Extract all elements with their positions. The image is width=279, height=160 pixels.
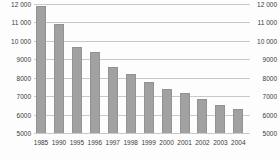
y-axis-tick-label-left: 12 000 (0, 1, 31, 8)
y-axis-tick-label-right: 11 000 (246, 19, 277, 26)
y-axis-tick-label-right: 8000 (246, 75, 277, 82)
y-axis-tick-label-right: 12 000 (246, 1, 277, 8)
bar-chart: 12 00012 00011 00011 00010 00010 0009000… (0, 0, 279, 160)
bar (144, 82, 154, 134)
bar (233, 109, 243, 134)
y-axis-tick-label-left: 10 000 (0, 38, 31, 45)
gridline (34, 78, 250, 79)
y-axis-tick-label-left: 5000 (0, 130, 31, 137)
bar (90, 52, 100, 133)
y-axis-tick-label-left: 11 000 (0, 19, 31, 26)
y-axis-tick-label-right: 5000 (246, 130, 277, 137)
bar (215, 105, 225, 134)
bar (197, 99, 207, 133)
x-axis-tick-label: 2004 (225, 139, 251, 146)
gridline (34, 4, 250, 5)
bar (126, 74, 136, 134)
gridline (34, 59, 250, 60)
bar (36, 6, 46, 133)
y-axis-tick-label-left: 8000 (0, 75, 31, 82)
y-axis-tick-label-right: 6000 (246, 112, 277, 119)
gridline (34, 96, 250, 97)
bar (72, 47, 82, 134)
bar (54, 24, 64, 134)
gridline (34, 22, 250, 23)
bar (108, 67, 118, 133)
y-axis-tick-label-left: 6000 (0, 112, 31, 119)
y-axis-tick-label-left: 7000 (0, 93, 31, 100)
y-axis-tick-label-right: 7000 (246, 93, 277, 100)
y-axis-tick-label-right: 10 000 (246, 38, 277, 45)
bar (180, 93, 190, 134)
y-axis-tick-label-right: 9000 (246, 56, 277, 63)
bar (162, 89, 172, 133)
gridline (34, 41, 250, 42)
y-axis-tick-label-left: 9000 (0, 56, 31, 63)
